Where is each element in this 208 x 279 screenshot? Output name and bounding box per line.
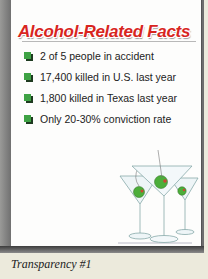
green-square-bullet-icon [24,52,32,60]
transparency-caption: Transparency #1 [11,257,92,272]
list-item: 1,800 killed in Texas last year [24,91,177,112]
slide-title: Alcohol-Related Facts [14,22,194,42]
list-item: 2 of 5 people in accident [24,49,177,70]
title-divider [22,41,196,42]
green-square-bullet-icon [24,73,32,81]
martini-glass-right [170,178,198,235]
slide-frame-left-edge [0,0,11,252]
list-item: Only 20-30% conviction rate [24,112,177,133]
fact-text: 17,400 killed in U.S. last year [40,71,176,83]
fact-text: 1,800 killed in Texas last year [40,92,177,104]
green-square-bullet-icon [24,94,32,102]
fact-list: 2 of 5 people in accident 17,400 killed … [24,49,177,133]
martini-glasses-icon [118,148,200,248]
fact-text: 2 of 5 people in accident [40,50,154,62]
fact-text: Only 20-30% conviction rate [40,113,171,125]
green-square-bullet-icon [24,115,32,123]
list-item: 17,400 killed in U.S. last year [24,70,177,91]
